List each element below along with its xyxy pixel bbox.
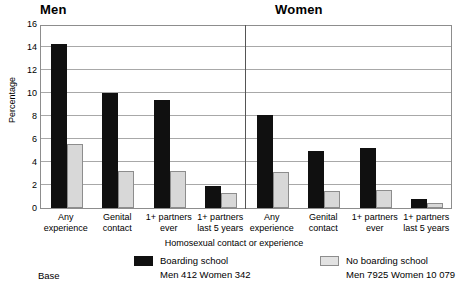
base-label: Base (38, 270, 60, 281)
bar (324, 191, 340, 208)
bar-chart: Men Women Percentage 1614121086420 Any e… (0, 0, 468, 305)
legend-swatch-boarding-school (134, 256, 153, 266)
gridline (41, 46, 451, 47)
bar (411, 199, 427, 208)
y-tick-label: 8 (3, 112, 37, 121)
x-tick-label: 1+ partners ever (349, 212, 401, 234)
legend-swatch-no-boarding-school (320, 256, 339, 266)
x-tick-label: Genital contact (92, 212, 144, 234)
bar (51, 44, 67, 208)
x-tick-label: Any experience (246, 212, 298, 234)
legend-label-boarding-school: Boarding school Men 412 Women 342 (160, 254, 251, 282)
panel-divider (245, 25, 246, 209)
x-axis-label: Homosexual contact or experience (0, 238, 468, 248)
bar (67, 144, 83, 208)
x-tick-label: 1+ partners last 5 years (195, 212, 247, 234)
x-tick-label: 1+ partners last 5 years (401, 212, 453, 234)
legend-base-no-boarding-school: Men 7925 Women 10 079 (346, 269, 455, 280)
bar (427, 203, 443, 208)
y-tick-label: 4 (3, 158, 37, 167)
x-tick-label: Any experience (40, 212, 92, 234)
x-tick-label: Genital contact (298, 212, 350, 234)
panel-title-men: Men (40, 2, 67, 17)
bar (102, 93, 118, 208)
panel-title-women: Women (275, 2, 323, 17)
plot-area (40, 25, 452, 209)
legend-title-no-boarding-school: No boarding school (346, 255, 428, 266)
y-tick-label: 2 (3, 181, 37, 190)
legend-title-boarding-school: Boarding school (160, 255, 228, 266)
gridline (41, 69, 451, 70)
bar (308, 151, 324, 209)
bar (170, 171, 186, 208)
x-tick-label: 1+ partners ever (143, 212, 195, 234)
y-tick-label: 16 (3, 20, 37, 29)
bar (273, 172, 289, 208)
bar (154, 100, 170, 208)
legend-base-boarding-school: Men 412 Women 342 (160, 269, 251, 280)
y-tick-label: 14 (3, 43, 37, 52)
legend-label-no-boarding-school: No boarding school Men 7925 Women 10 079 (346, 254, 455, 282)
bar (257, 115, 273, 208)
legend: Base Boarding school Men 412 Women 342 N… (0, 256, 468, 296)
bar (205, 186, 221, 208)
bar (221, 193, 237, 208)
y-tick-label: 10 (3, 89, 37, 98)
y-tick-label: 12 (3, 66, 37, 75)
bar (118, 171, 134, 208)
bar (360, 148, 376, 208)
bar (376, 190, 392, 208)
y-tick-label: 6 (3, 135, 37, 144)
y-tick-label: 0 (3, 204, 37, 213)
